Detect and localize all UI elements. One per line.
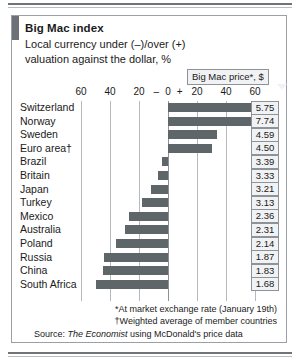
x-axis-tick-0: 60	[71, 86, 91, 97]
value-bar	[96, 280, 169, 289]
chart-row: Australia2.31	[12, 223, 288, 236]
x-axis-tick-6: 20	[187, 86, 207, 97]
chart-row: Russia1.87	[12, 251, 288, 264]
country-label: Euro area†	[20, 142, 72, 155]
price-value-box: 3.13	[251, 196, 279, 210]
x-axis-tick-7: 40	[216, 86, 236, 97]
price-value-box: 1.83	[251, 264, 279, 278]
price-value-box: 2.31	[251, 223, 279, 237]
country-label: Poland	[20, 237, 53, 250]
country-label: Australia	[20, 223, 61, 236]
footnote-market-exchange-rate: *At market exchange rate (January 19th)	[115, 304, 277, 314]
country-label: Mexico	[20, 210, 53, 223]
price-value-box: 3.39	[251, 155, 279, 169]
x-axis-tick-8: 60	[245, 86, 265, 97]
value-bar	[104, 253, 168, 262]
price-value-box: 3.21	[251, 182, 279, 196]
value-bar	[125, 225, 169, 234]
chart-row: China1.83	[12, 264, 288, 277]
price-value-box: 4.59	[251, 128, 279, 142]
chart-row: Sweden4.59	[12, 128, 288, 141]
price-value-box: 1.68	[251, 277, 279, 291]
price-value-box: 7.74	[251, 114, 279, 128]
source-suffix: using McDonald's price data	[128, 329, 243, 339]
value-bar	[103, 266, 168, 275]
chart-row: Britain3.33	[12, 169, 288, 182]
value-bar	[158, 171, 168, 180]
top-rule-thin	[8, 7, 292, 8]
price-value-box: 2.36	[251, 209, 279, 223]
x-axis-tick-labels: 604020–0+204060	[12, 86, 288, 100]
top-rule-thick	[8, 3, 292, 5]
country-label: Turkey	[20, 196, 52, 209]
chart-row: Poland2.14	[12, 237, 288, 250]
chart-row: Japan3.21	[12, 183, 288, 196]
price-value-box: 3.33	[251, 169, 279, 183]
chart-row: South Africa1.68	[12, 278, 288, 291]
plot-area: Switzerland5.75Norway7.74Sweden4.59Euro …	[12, 101, 288, 301]
chart-row: Euro area†4.50	[12, 142, 288, 155]
source-prefix: Source:	[34, 329, 68, 339]
value-bar	[168, 103, 258, 112]
chart-row: Switzerland5.75	[12, 101, 288, 114]
price-value-box: 5.75	[251, 101, 279, 115]
value-bar	[162, 157, 168, 166]
country-label: Switzerland	[20, 101, 74, 114]
country-label: Sweden	[20, 128, 58, 141]
value-bar	[116, 239, 168, 248]
price-value-box: 4.50	[251, 141, 279, 155]
value-bar	[151, 185, 168, 194]
country-label: Norway	[20, 115, 56, 128]
country-label: Russia	[20, 251, 52, 264]
chart-row: Norway7.74	[12, 115, 288, 128]
price-value-box: 1.87	[251, 250, 279, 264]
value-bar	[168, 117, 258, 126]
chart-subtitle-line1: Local currency under (–)/over (+)	[25, 38, 185, 50]
accent-block	[12, 16, 19, 40]
country-label: Brazil	[20, 155, 46, 168]
chart-title: Big Mac index	[25, 22, 104, 34]
value-bar	[168, 130, 217, 139]
country-label: South Africa	[20, 278, 77, 291]
chart-card: Big Mac index Local currency under (–)/o…	[11, 15, 287, 343]
footnote-weighted-average: †Weighted average of member countries	[115, 316, 277, 326]
country-label: China	[20, 264, 47, 277]
chart-row: Mexico2.36	[12, 210, 288, 223]
chart-subtitle-line2: valuation against the dollar, %	[25, 53, 171, 65]
chart-row: Turkey3.13	[12, 196, 288, 209]
country-label: Britain	[20, 169, 50, 182]
bottom-rule-thin	[8, 356, 292, 357]
chart-row: Brazil3.39	[12, 155, 288, 168]
source-publication: The Economist	[68, 329, 128, 339]
x-axis-tick-1: 40	[100, 86, 120, 97]
value-bar	[129, 212, 168, 221]
price-value-box: 2.14	[251, 237, 279, 251]
bottom-rule-thick	[8, 352, 292, 354]
source-line: Source: The Economist using McDonald's p…	[34, 329, 243, 339]
price-column-header-callout: Big Mac price*, $	[187, 69, 269, 85]
value-bar	[168, 144, 212, 153]
value-bar	[142, 198, 168, 207]
country-label: Japan	[20, 183, 49, 196]
